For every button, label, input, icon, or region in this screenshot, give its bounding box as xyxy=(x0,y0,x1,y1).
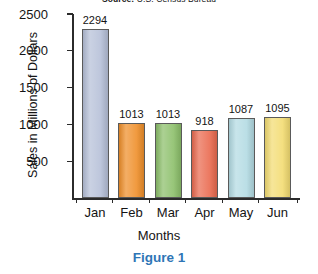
y-axis-tick-label: 1500 xyxy=(2,81,48,94)
plot-area: 50010001500200025002294Jan1013Feb1013Mar… xyxy=(72,14,300,198)
bar-feb xyxy=(118,123,145,198)
y-axis-tick xyxy=(67,50,73,51)
x-axis-tick xyxy=(76,198,77,203)
y-axis-tick xyxy=(67,124,73,125)
y-axis-line xyxy=(72,14,74,198)
bar-may xyxy=(228,118,255,198)
bar-jun xyxy=(264,117,291,198)
source-label: Source: xyxy=(102,0,134,4)
x-axis-title: Months xyxy=(0,228,318,243)
bar-value-label: 918 xyxy=(181,116,229,127)
bar-jan xyxy=(82,29,109,198)
y-axis-tick-label: 2500 xyxy=(2,8,48,21)
x-axis-tick xyxy=(149,198,150,203)
figure-caption: Figure 1 xyxy=(0,250,318,265)
bar-value-label: 1095 xyxy=(254,103,302,114)
y-axis-tick xyxy=(67,161,73,162)
x-axis-category-label: Jun xyxy=(254,206,302,219)
bar-apr xyxy=(191,130,218,198)
bar-value-label: 2294 xyxy=(71,15,119,26)
y-axis-tick-label: 2000 xyxy=(2,44,48,57)
source-note: Source: U.S. Census Bureau xyxy=(0,0,318,4)
bar-mar xyxy=(155,123,182,198)
x-axis-tick xyxy=(222,198,223,203)
y-axis-tick-label: 500 xyxy=(2,155,48,168)
source-text: U.S. Census Bureau xyxy=(134,0,216,4)
y-axis-tick xyxy=(67,87,73,88)
x-axis-tick xyxy=(112,198,113,203)
y-axis-tick-label: 1000 xyxy=(2,118,48,131)
x-axis-tick xyxy=(297,198,298,203)
x-axis-tick xyxy=(185,198,186,203)
figure-1-chart: Source: U.S. Census Bureau Sales in Mill… xyxy=(0,0,318,274)
x-axis-tick xyxy=(258,198,259,203)
